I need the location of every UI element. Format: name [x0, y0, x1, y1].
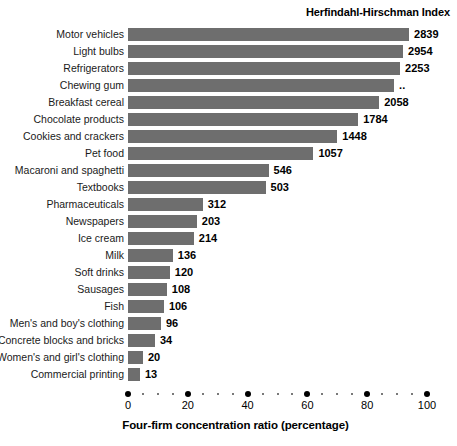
category-label: Sausages [77, 281, 124, 298]
bar [128, 232, 194, 245]
bar-row: Sausages108 [0, 281, 457, 298]
bar-row: Macaroni and spaghetti546 [0, 162, 457, 179]
bar-value-label: 34 [160, 333, 172, 348]
bar-value-label: 1448 [342, 129, 366, 144]
bar [128, 334, 155, 347]
x-tick-minor [336, 393, 338, 395]
bar-row: Cookies and crackers1448 [0, 128, 457, 145]
bar-row: Ice cream214 [0, 230, 457, 247]
herfindahl-concentration-bar-chart: Herfindahl-Hirschman Index Motor vehicle… [0, 0, 457, 446]
x-tick-major [245, 391, 251, 397]
bar-track: 312 [128, 198, 457, 211]
bar-value-label: .. [399, 78, 405, 93]
bar [128, 45, 403, 58]
x-tick-minor [321, 393, 323, 395]
hhi-column-header: Herfindahl-Hirschman Index [306, 6, 450, 18]
bar-track: .. [128, 79, 457, 92]
bar [128, 249, 173, 262]
bar-row: Men's and boy's clothing96 [0, 315, 457, 332]
x-tick-minor [142, 393, 144, 395]
bar [128, 181, 266, 194]
category-label: Textbooks [77, 179, 124, 196]
bar-value-label: 2253 [405, 61, 429, 76]
x-tick-major [185, 391, 191, 397]
bar [128, 79, 394, 92]
bar [128, 215, 197, 228]
x-axis-ticks [0, 389, 457, 401]
bar-value-label: 2058 [384, 95, 408, 110]
bar-value-label: 203 [202, 214, 220, 229]
category-label: Men's and boy's clothing [10, 315, 124, 332]
category-label: Newspapers [66, 213, 124, 230]
bar-row: Motor vehicles2839 [0, 26, 457, 43]
category-label: Breakfast cereal [48, 94, 124, 111]
bar-track: 120 [128, 266, 457, 279]
x-tick-minor [396, 393, 398, 395]
bar-track: 1057 [128, 147, 457, 160]
bar-value-label: 1784 [363, 112, 387, 127]
bar-track: 1784 [128, 113, 457, 126]
bar-row: Soft drinks120 [0, 264, 457, 281]
bar [128, 351, 143, 364]
bar-track: 2253 [128, 62, 457, 75]
x-axis-title: Four-firm concentration ratio (percentag… [0, 419, 457, 431]
bar [128, 266, 170, 279]
x-tick-label: 40 [241, 399, 253, 411]
bar-value-label: 546 [274, 163, 292, 178]
bar-track: 20 [128, 351, 457, 364]
bar-track: 96 [128, 317, 457, 330]
x-tick-minor [217, 393, 219, 395]
bar-row: Commercial printing13 [0, 366, 457, 383]
x-tick-major [304, 391, 310, 397]
bar-row: Concrete blocks and bricks34 [0, 332, 457, 349]
x-tick-minor [262, 393, 264, 395]
category-label: Milk [105, 247, 124, 264]
bar-value-label: 120 [175, 265, 193, 280]
bar [128, 147, 313, 160]
bar-value-label: 214 [199, 231, 217, 246]
x-tick-minor [351, 393, 353, 395]
bar-track: 503 [128, 181, 457, 194]
x-tick-minor [232, 393, 234, 395]
bar-row: Pharmaceuticals312 [0, 196, 457, 213]
bar-value-label: 136 [178, 248, 196, 263]
x-tick-major [424, 391, 430, 397]
x-tick-minor [157, 393, 159, 395]
bar-value-label: 312 [208, 197, 226, 212]
x-tick-label: 100 [418, 399, 436, 411]
bar [128, 113, 358, 126]
category-label: Cookies and crackers [23, 128, 124, 145]
bar [128, 62, 400, 75]
bar-value-label: 96 [166, 316, 178, 331]
bar-row: Refrigerators2253 [0, 60, 457, 77]
category-label: Macaroni and spaghetti [15, 162, 124, 179]
bar-track: 2954 [128, 45, 457, 58]
bar-row: Milk136 [0, 247, 457, 264]
category-label: Pet food [85, 145, 124, 162]
bar-value-label: 2954 [408, 44, 432, 59]
bar-value-label: 108 [172, 282, 190, 297]
bar [128, 130, 337, 143]
x-tick-major [125, 391, 131, 397]
bar-row: Chocolate products1784 [0, 111, 457, 128]
x-tick-minor [202, 393, 204, 395]
x-tick-minor [172, 393, 174, 395]
category-label: Fish [104, 298, 124, 315]
bar-value-label: 13 [145, 367, 157, 382]
bar-row: Light bulbs2954 [0, 43, 457, 60]
bar-track: 203 [128, 215, 457, 228]
x-tick-minor [411, 393, 413, 395]
bar-row: Women's and girl's clothing20 [0, 349, 457, 366]
category-label: Ice cream [78, 230, 124, 247]
category-label: Motor vehicles [56, 26, 124, 43]
bar [128, 368, 140, 381]
bar [128, 198, 203, 211]
category-label: Chocolate products [34, 111, 124, 128]
bar-value-label: 2839 [414, 27, 438, 42]
bar-track: 13 [128, 368, 457, 381]
category-label: Women's and girl's clothing [0, 349, 124, 366]
x-tick-minor [277, 393, 279, 395]
bar-value-label: 20 [148, 350, 160, 365]
category-label: Chewing gum [60, 77, 124, 94]
category-label: Refrigerators [63, 60, 124, 77]
